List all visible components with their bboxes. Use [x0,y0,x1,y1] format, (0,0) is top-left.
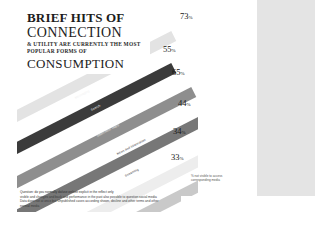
value-label-1: 73% [180,11,193,21]
infographic-canvas: Social media Messaging Search Short-form… [0,0,315,229]
bar-caption-6: Streaming [124,167,139,177]
page-title: BRIEF HITS OF CONNECTION & UTILITY ARE C… [25,9,150,74]
bottom-right-white [181,196,315,229]
title-line-4: CONSUMPTION [27,56,147,71]
footnote-line-3: Data does not at once but Unpublished ca… [20,199,161,208]
title-line-2: CONNECTION [27,25,147,40]
side-note: % not visible to access corresponding me… [191,174,231,182]
value-label-5: 34% [173,126,186,136]
value-label-3: 65% [172,67,185,77]
value-label-4: 44% [178,98,191,108]
value-label-2: 55% [163,44,176,54]
chart-card: Social media Messaging Search Short-form… [17,4,198,212]
value-label-6: 33% [171,152,184,162]
title-line-1: BRIEF HITS OF [27,11,147,25]
footnote: Question: do you normally do/use on/see … [20,190,161,208]
title-line-3: & UTILITY ARE CURRENTLY THE MOST POPULAR… [27,41,147,54]
right-grey-panel [257,0,315,196]
